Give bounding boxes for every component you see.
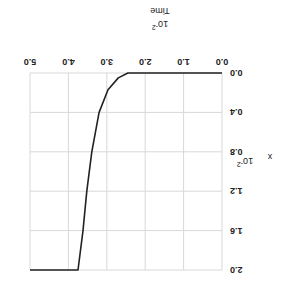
series-line [30,73,222,270]
grid-lines [30,73,222,270]
y-tick-label: 0.4 [230,107,243,117]
x-axis-ticks: 0.01.02.03.04.05.0 [24,57,229,67]
y-tick-label: 1.6 [230,226,243,236]
x-tick-label: 3.0 [101,57,114,67]
y-tick-label: 1.2 [230,186,243,196]
y-axis-label: x [267,152,272,162]
y-tick-label: 2.0 [230,265,243,275]
x-tick-label: 2.0 [139,57,152,67]
x-tick-label: 5.0 [24,57,37,67]
chart-rotated-container: 0.01.02.03.04.05.0 0.00.40.81.21.62.0 10… [0,0,300,296]
y-tick-label: 0.0 [230,68,243,78]
y-tick-label: 0.8 [230,147,243,157]
data-series [30,73,222,270]
y-axis-ticks: 0.00.40.81.21.62.0 [230,68,243,275]
x-axis-label: Time [150,6,170,16]
x-tick-label: 1.0 [177,57,190,67]
y-axis-multiplier: 10-2 [237,156,253,168]
x-tick-label: 4.0 [62,57,75,67]
line-chart: 0.01.02.03.04.05.0 0.00.40.81.21.62.0 10… [0,0,300,296]
x-tick-label: 0.0 [216,57,229,67]
x-axis-multiplier: 10-2 [152,19,168,31]
